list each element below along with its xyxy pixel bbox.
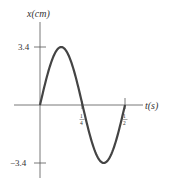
- y-tick-label-neg: −3.4: [10, 158, 27, 168]
- x-tick-label-half-num: 1: [123, 113, 126, 119]
- x-axis-label: t(s): [145, 100, 159, 112]
- chart: x(cm) t(s) 3.4 −3.4 1 4 1 2: [0, 0, 170, 187]
- y-axis-label: x(cm): [26, 8, 50, 20]
- x-tick-label-quarter-den: 4: [80, 120, 83, 126]
- x-tick-label-half-den: 2: [123, 120, 126, 126]
- y-tick-label-pos: 3.4: [18, 42, 30, 52]
- x-tick-label-quarter-num: 1: [80, 113, 83, 119]
